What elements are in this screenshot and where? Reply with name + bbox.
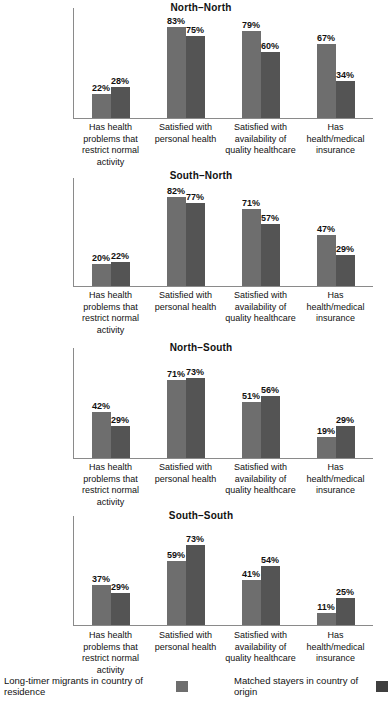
- bar-group: 22%28%: [73, 8, 148, 118]
- bar-group: 42%29%: [73, 348, 148, 458]
- bar-migrants: 71%: [167, 380, 186, 458]
- bar-groups: 37%29%59%73%41%54%11%25%: [73, 516, 373, 625]
- bar-slot: 42%: [92, 348, 111, 458]
- plot-area: 20%22%82%77%71%57%47%29%: [73, 178, 373, 286]
- bar-value-label: 22%: [92, 83, 110, 93]
- bar-slot: 47%: [317, 178, 336, 286]
- bar-migrants: 71%: [242, 209, 261, 286]
- category-label: Has health/medical insurance: [298, 122, 373, 168]
- bar-stayers: 75%: [186, 36, 205, 119]
- bar-stayers: 73%: [186, 545, 205, 625]
- bar-slot: 82%: [167, 178, 186, 286]
- bar-stayers: 77%: [186, 203, 205, 286]
- bar-value-label: 29%: [111, 582, 129, 592]
- bar-value-label: 25%: [336, 587, 354, 597]
- bar-value-label: 29%: [336, 244, 354, 254]
- bar-group: 71%73%: [148, 348, 223, 458]
- bar-migrants: 47%: [317, 235, 336, 286]
- bar-slot: 73%: [186, 516, 205, 625]
- bar-migrants: 41%: [242, 580, 261, 625]
- bar-value-label: 73%: [186, 367, 204, 377]
- bar-stayers: 29%: [111, 593, 130, 625]
- bar-group: 79%60%: [223, 8, 298, 118]
- bar-migrants: 20%: [92, 264, 111, 286]
- legend-swatch-migrants: [176, 681, 188, 692]
- bar-migrants: 51%: [242, 402, 261, 458]
- bar-value-label: 42%: [92, 401, 110, 411]
- plot-area: 37%29%59%73%41%54%11%25%: [73, 516, 373, 625]
- bar-slot: 29%: [336, 178, 355, 286]
- bar-stayers: 56%: [261, 396, 280, 458]
- bar-value-label: 51%: [242, 391, 260, 401]
- category-label: Satisfied with personal health: [148, 630, 223, 676]
- bar-group: 41%54%: [223, 516, 298, 625]
- bar-stayers: 29%: [111, 426, 130, 458]
- category-label: Has health/medical insurance: [298, 630, 373, 676]
- chart-panel-3: North–South42%29%71%73%51%56%19%29%Has h…: [0, 340, 388, 508]
- bar-slot: 29%: [336, 348, 355, 458]
- legend-label-migrants: Long-timer migrants in country of reside…: [4, 675, 171, 697]
- bar-stayers: 28%: [111, 87, 130, 118]
- category-labels: Has health problems that restrict normal…: [73, 290, 373, 336]
- legend-swatch-stayers: [376, 681, 388, 692]
- bar-group: 51%56%: [223, 348, 298, 458]
- bar-value-label: 59%: [167, 550, 185, 560]
- bar-migrants: 67%: [317, 44, 336, 118]
- category-label: Satisfied with personal health: [148, 122, 223, 168]
- bar-group: 19%29%: [298, 348, 373, 458]
- bar-stayers: 25%: [336, 598, 355, 625]
- bar-stayers: 34%: [336, 81, 355, 118]
- bar-group: 20%22%: [73, 178, 148, 286]
- category-label: Has health problems that restrict normal…: [73, 462, 148, 508]
- bar-value-label: 29%: [336, 415, 354, 425]
- bar-value-label: 73%: [186, 534, 204, 544]
- bar-group: 71%57%: [223, 178, 298, 286]
- bar-migrants: 37%: [92, 585, 111, 625]
- category-label: Satisfied with personal health: [148, 290, 223, 336]
- category-label: Has health problems that restrict normal…: [73, 630, 148, 676]
- chart-legend: Long-timer migrants in country of reside…: [0, 676, 388, 696]
- bar-value-label: 71%: [242, 198, 260, 208]
- category-label: Has health problems that restrict normal…: [73, 290, 148, 336]
- bar-value-label: 77%: [186, 192, 204, 202]
- bar-stayers: 57%: [261, 224, 280, 286]
- bar-stayers: 22%: [111, 262, 130, 286]
- bar-slot: 25%: [336, 516, 355, 625]
- bar-group: 37%29%: [73, 516, 148, 625]
- bar-slot: 20%: [92, 178, 111, 286]
- bar-slot: 75%: [186, 8, 205, 118]
- chart-panel-2: South–North20%22%82%77%71%57%47%29%Has h…: [0, 168, 388, 336]
- bar-slot: 57%: [261, 178, 280, 286]
- bar-slot: 51%: [242, 348, 261, 458]
- bar-groups: 42%29%71%73%51%56%19%29%: [73, 348, 373, 458]
- bar-value-label: 41%: [242, 569, 260, 579]
- category-label: Satisfied with availability of quality h…: [223, 290, 298, 336]
- bar-migrants: 42%: [92, 412, 111, 458]
- bar-slot: 34%: [336, 8, 355, 118]
- bar-value-label: 11%: [317, 602, 335, 612]
- bar-migrants: 82%: [167, 197, 186, 286]
- bar-value-label: 56%: [261, 385, 279, 395]
- bar-value-label: 34%: [336, 70, 354, 80]
- bar-slot: 79%: [242, 8, 261, 118]
- bar-group: 82%77%: [148, 178, 223, 286]
- category-label: Satisfied with availability of quality h…: [223, 462, 298, 508]
- bar-stayers: 29%: [336, 255, 355, 286]
- bar-group: 11%25%: [298, 516, 373, 625]
- bar-value-label: 57%: [261, 213, 279, 223]
- bar-value-label: 19%: [317, 426, 335, 436]
- x-axis-line: [73, 625, 373, 626]
- category-label: Satisfied with availability of quality h…: [223, 630, 298, 676]
- bar-slot: 67%: [317, 8, 336, 118]
- bar-slot: 59%: [167, 516, 186, 625]
- chart-panel-4: South–South37%29%59%73%41%54%11%25%Has h…: [0, 508, 388, 676]
- bar-value-label: 28%: [111, 76, 129, 86]
- bar-migrants: 22%: [92, 94, 111, 118]
- bar-slot: 60%: [261, 8, 280, 118]
- bar-migrants: 83%: [167, 27, 186, 118]
- bar-group: 83%75%: [148, 8, 223, 118]
- plot-area: 42%29%71%73%51%56%19%29%: [73, 348, 373, 458]
- bar-stayers: 29%: [336, 426, 355, 458]
- bar-value-label: 22%: [111, 251, 129, 261]
- bar-value-label: 29%: [111, 415, 129, 425]
